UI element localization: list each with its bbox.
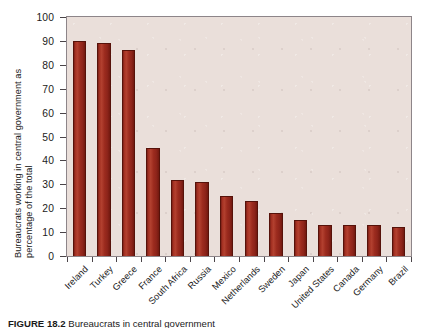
y-axis-tick-label: 0 xyxy=(14,251,54,262)
y-axis-tick xyxy=(60,184,66,185)
y-axis-tick-label: 50 xyxy=(14,131,54,142)
y-axis-tick-label: 60 xyxy=(14,107,54,118)
y-axis-tick xyxy=(60,208,66,209)
bar xyxy=(73,41,87,256)
figure-caption: FIGURE 18.2 Bureaucrats in central gover… xyxy=(8,318,426,328)
y-axis-tick-label: 40 xyxy=(14,155,54,166)
y-axis-tick xyxy=(60,89,66,90)
figure-caption-text: Bureaucrats in central government xyxy=(68,318,215,328)
bar-series xyxy=(67,17,411,256)
y-axis-tick-label: 80 xyxy=(14,59,54,70)
figure-number: FIGURE 18.2 xyxy=(8,318,66,328)
y-axis-tick xyxy=(60,65,66,66)
y-axis-tick xyxy=(60,256,66,257)
y-axis-tick-label: 10 xyxy=(14,227,54,238)
y-axis-tick-label: 90 xyxy=(14,35,54,46)
bar xyxy=(146,148,160,256)
y-axis-tick xyxy=(60,137,66,138)
y-axis-tick-label: 70 xyxy=(14,83,54,94)
y-axis-tick-label: 30 xyxy=(14,179,54,190)
y-axis-tick xyxy=(60,41,66,42)
y-axis-tick xyxy=(60,113,66,114)
x-axis-tick xyxy=(67,257,68,262)
y-axis-tick-label: 100 xyxy=(14,12,54,23)
y-axis-tick xyxy=(60,17,66,18)
bar xyxy=(122,50,136,256)
figure-bar-chart: Bureaucrats working in central governmen… xyxy=(0,0,426,328)
y-axis-tick xyxy=(60,160,66,161)
y-axis-tick xyxy=(60,232,66,233)
bar xyxy=(97,43,111,256)
y-axis-tick-label: 20 xyxy=(14,203,54,214)
